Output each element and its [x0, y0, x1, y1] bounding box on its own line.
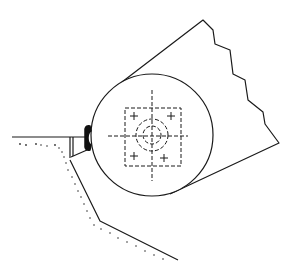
- diagram-canvas: [0, 0, 291, 271]
- clip-icon: [85, 126, 91, 150]
